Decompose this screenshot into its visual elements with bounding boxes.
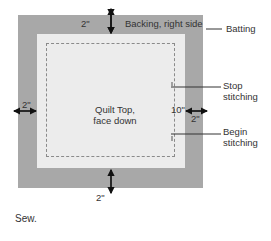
stop-stitching-label: Stop stitching: [223, 80, 258, 102]
right-margin-label: 2": [191, 113, 200, 124]
batting-label: Batting: [226, 23, 256, 34]
top-margin-label: 2": [81, 18, 90, 29]
quilt-top-label: Quilt Top, face down: [80, 104, 150, 126]
backing-label: Backing, right side: [125, 18, 203, 29]
opening-label: 10": [171, 104, 185, 115]
begin-stitching-label: Begin stitching: [223, 126, 258, 148]
caption: Sew.: [15, 213, 37, 224]
bottom-margin-label: 2": [96, 192, 105, 203]
left-margin-label: 2": [22, 99, 31, 110]
